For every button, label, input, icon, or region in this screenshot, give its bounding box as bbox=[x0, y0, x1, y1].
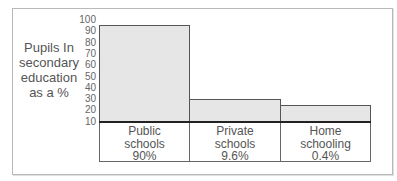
category-label: Public bbox=[100, 125, 189, 138]
y-axis-label: Pupils In secondary education as a % bbox=[14, 40, 84, 100]
y-tick: 70 bbox=[76, 49, 96, 59]
y-tick: 50 bbox=[76, 72, 96, 82]
y-axis-label-line: secondary bbox=[14, 55, 84, 70]
y-tick: 60 bbox=[76, 60, 96, 70]
y-tick: 10 bbox=[76, 117, 96, 127]
category-label: Private bbox=[190, 125, 280, 138]
category-value: 9.6% bbox=[190, 150, 280, 163]
y-tick: 30 bbox=[76, 94, 96, 104]
y-tick: 80 bbox=[76, 38, 96, 48]
category-cell-home: Home schooling 0.4% bbox=[280, 123, 371, 162]
bar-public-schools bbox=[99, 25, 190, 122]
category-value: 90% bbox=[100, 150, 189, 163]
y-tick: 40 bbox=[76, 83, 96, 93]
y-axis-label-line: Pupils In bbox=[14, 40, 84, 55]
y-tick: 20 bbox=[76, 105, 96, 115]
category-value: 0.4% bbox=[281, 150, 370, 163]
category-cell-public: Public schools 90% bbox=[99, 123, 189, 162]
category-label: Home bbox=[281, 125, 370, 138]
y-tick: 100 bbox=[76, 15, 96, 25]
bar-home-schooling bbox=[280, 105, 371, 122]
y-axis-label-line: as a % bbox=[14, 85, 84, 100]
y-axis-label-line: education bbox=[14, 70, 84, 85]
bar-private-schools bbox=[189, 99, 281, 122]
y-tick: 90 bbox=[76, 26, 96, 36]
category-cell-private: Private schools 9.6% bbox=[189, 123, 280, 162]
